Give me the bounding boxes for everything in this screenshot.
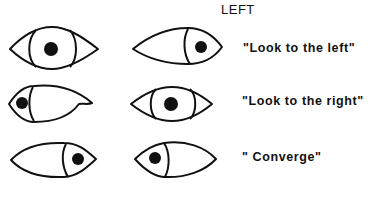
caption-look-left: "Look to the left" (243, 41, 355, 55)
eye-row1-left-center-gaze-icon (10, 27, 98, 69)
eye-row3-left-rightward-gaze-icon (11, 143, 96, 177)
eye-row3-right-leftward-gaze-icon (135, 142, 216, 177)
eye-row2-left-leftward-gaze-icon (9, 86, 92, 122)
eye-row2-right-center-gaze-icon (131, 87, 212, 121)
eye-movement-diagram: LEFT (0, 0, 379, 197)
caption-converge: " Converge" (242, 150, 322, 164)
caption-look-right: "Look to the right" (242, 94, 364, 108)
eye-row1-right-rightward-gaze-icon (133, 28, 222, 64)
